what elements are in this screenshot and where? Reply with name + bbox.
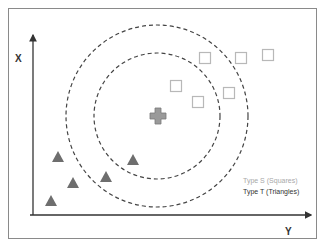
horizontal-axis-label: Y — [285, 226, 292, 237]
triangle-icon — [100, 171, 112, 182]
legend-type-t: Type T (Triangles) — [243, 186, 299, 197]
triangle-icon — [45, 195, 57, 206]
triangle-icon — [127, 154, 139, 165]
square-icon — [263, 50, 274, 61]
legend-type-s: Type S (Squares) — [243, 175, 299, 186]
type-s-squares — [171, 50, 274, 108]
square-icon — [236, 53, 247, 64]
type-t-triangles — [45, 151, 139, 206]
triangle-icon — [52, 151, 64, 162]
diagram-canvas: X Y Type S (Squares) Type T (Triangles) — [0, 0, 325, 250]
vertical-axis-label: X — [15, 53, 22, 64]
square-icon — [200, 53, 211, 64]
square-icon — [193, 97, 204, 108]
triangle-icon — [67, 177, 79, 188]
square-icon — [171, 81, 182, 92]
legend: Type S (Squares) Type T (Triangles) — [243, 175, 299, 197]
plus-icon — [150, 108, 166, 124]
square-icon — [224, 88, 235, 99]
plot-area — [0, 0, 325, 250]
query-point-plus-icon — [150, 108, 166, 124]
